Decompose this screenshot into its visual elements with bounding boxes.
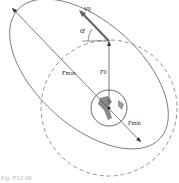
rmax-label: rmax: [62, 68, 76, 77]
orbit-diagram: v0 α r0 rmax rmin Fig. P12.99: [0, 0, 179, 183]
rmax-line: [12, 8, 141, 142]
rmin-label: rmin: [128, 118, 141, 127]
r0-sub: 0: [104, 69, 107, 75]
r0-label: r0: [100, 67, 107, 76]
rmin-sub: min: [132, 120, 141, 126]
v0-label: v0: [84, 4, 91, 13]
figure-caption: Fig. P12.99: [1, 175, 32, 181]
rmax-sub: max: [66, 70, 76, 76]
orbit-drawing: [0, 0, 179, 183]
v0-arrow: [81, 12, 109, 41]
alpha-label: α: [80, 26, 85, 35]
v0-sub: 0: [88, 6, 91, 12]
